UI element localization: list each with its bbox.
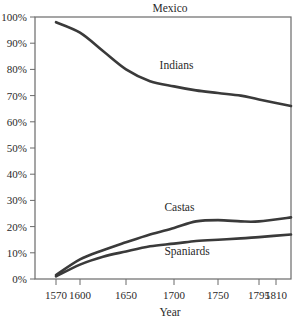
x-tick-label: 1810	[265, 289, 288, 301]
x-tick-label: 1700	[163, 289, 186, 301]
series-label-castas: Castas	[164, 201, 195, 213]
y-tick-label: 80%	[7, 63, 27, 75]
y-tick-label: 40%	[7, 168, 27, 180]
series-label-indians: Indians	[160, 59, 194, 71]
y-tick-label: 90%	[7, 37, 27, 49]
x-axis: 1570160016501700175017951810	[45, 279, 288, 301]
y-axis: 0%10%20%30%40%50%60%70%80%90%100%	[1, 11, 35, 285]
x-tick-label: 1600	[69, 289, 92, 301]
x-tick-label: 1570	[45, 289, 68, 301]
y-tick-label: 100%	[1, 11, 27, 23]
y-tick-label: 60%	[7, 116, 27, 128]
y-tick-label: 30%	[7, 194, 27, 206]
y-tick-label: 20%	[7, 221, 27, 233]
plot-frame	[35, 17, 291, 279]
y-tick-label: 50%	[7, 142, 27, 154]
y-tick-label: 0%	[12, 273, 27, 285]
x-tick-label: 1650	[115, 289, 138, 301]
y-tick-label: 10%	[7, 247, 27, 259]
plot-border	[35, 17, 291, 279]
line-chart: Mexico 0%10%20%30%40%50%60%70%80%90%100%…	[0, 0, 300, 321]
chart-title: Mexico	[152, 2, 187, 14]
x-tick-label: 1750	[207, 289, 230, 301]
chart-canvas: Mexico 0%10%20%30%40%50%60%70%80%90%100%…	[0, 0, 300, 321]
y-tick-label: 70%	[7, 90, 27, 102]
x-axis-label: Year	[159, 306, 180, 318]
series-label-spaniards: Spaniards	[164, 245, 210, 258]
